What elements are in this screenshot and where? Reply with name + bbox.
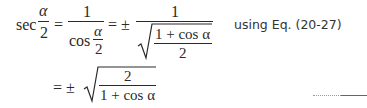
frac1-bar bbox=[68, 21, 104, 22]
frac2-rad-numerator: 1 + cos α bbox=[155, 27, 210, 42]
dotted-rule bbox=[313, 95, 341, 96]
frac1-numerator: 1 bbox=[83, 4, 91, 20]
lhs-numerator: α bbox=[39, 3, 47, 19]
lhs-fraction-bar bbox=[38, 21, 49, 22]
frac1-inner-den: 2 bbox=[95, 42, 103, 57]
sec-func: sec bbox=[16, 17, 36, 33]
end-rule bbox=[341, 95, 367, 96]
lhs-denominator: 2 bbox=[40, 25, 48, 41]
equation-reference-note: using Eq. (20-27) bbox=[234, 17, 342, 32]
equals-pm-1: = ± bbox=[108, 17, 130, 33]
equals-pm-2: = ± bbox=[53, 80, 75, 96]
line2-rad-numerator: 2 bbox=[124, 69, 132, 84]
frac1-cos: cos bbox=[69, 33, 90, 49]
equals-sign-1: = bbox=[54, 17, 63, 33]
line2-rad-bar bbox=[99, 85, 156, 86]
line2-rad-denominator: 1 + cos α bbox=[100, 88, 155, 103]
frac1-inner-bar bbox=[93, 39, 103, 40]
frac2-numerator: 1 bbox=[171, 4, 179, 20]
frac1-inner-num: α bbox=[94, 24, 102, 39]
frac2-rad-bar bbox=[154, 43, 212, 44]
frac2-rad-denominator: 2 bbox=[179, 46, 187, 61]
